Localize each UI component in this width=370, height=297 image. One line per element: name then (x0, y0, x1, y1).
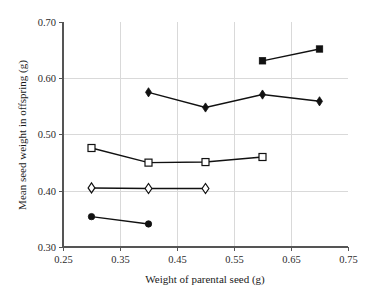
x-tick-label: 0.25 (54, 254, 72, 265)
y-axis-title: Mean seed weight in offspring (g) (16, 60, 29, 210)
x-tick-label: 0.65 (282, 254, 300, 265)
filled-diamond-marker (203, 103, 209, 112)
y-tick-label: 0.40 (38, 186, 56, 197)
tick-labels: 0.250.350.450.550.650.750.300.400.500.60… (38, 17, 358, 265)
y-tick-label: 0.70 (38, 17, 56, 28)
x-axis-title: Weight of parental seed (g) (145, 273, 265, 286)
open-square-marker (202, 159, 209, 166)
open-square-marker (88, 145, 95, 152)
chart-figure: 0.250.350.450.550.650.750.300.400.500.60… (0, 0, 370, 297)
filled-square-marker (259, 58, 265, 64)
filled-circle-marker (145, 221, 151, 227)
y-tick-label: 0.60 (38, 73, 56, 84)
scatter-plot: 0.250.350.450.550.650.750.300.400.500.60… (0, 0, 370, 297)
x-tick-label: 0.35 (111, 254, 129, 265)
x-tick-label: 0.55 (225, 254, 243, 265)
y-tick-label: 0.30 (38, 242, 56, 253)
filled-diamond-marker (317, 97, 323, 106)
filled-diamond-marker (146, 88, 152, 97)
x-tick-label: 0.75 (339, 254, 357, 265)
data-series-layer (88, 46, 323, 227)
x-tick-label: 0.45 (168, 254, 186, 265)
filled-circle-marker (88, 213, 94, 219)
filled-diamond-marker (260, 90, 266, 99)
gridlines (63, 22, 348, 247)
filled-square-marker (316, 46, 322, 52)
open-square-marker (145, 159, 152, 166)
y-tick-label: 0.50 (38, 129, 56, 140)
tick-marks (59, 23, 349, 252)
open-square-marker (259, 154, 266, 161)
